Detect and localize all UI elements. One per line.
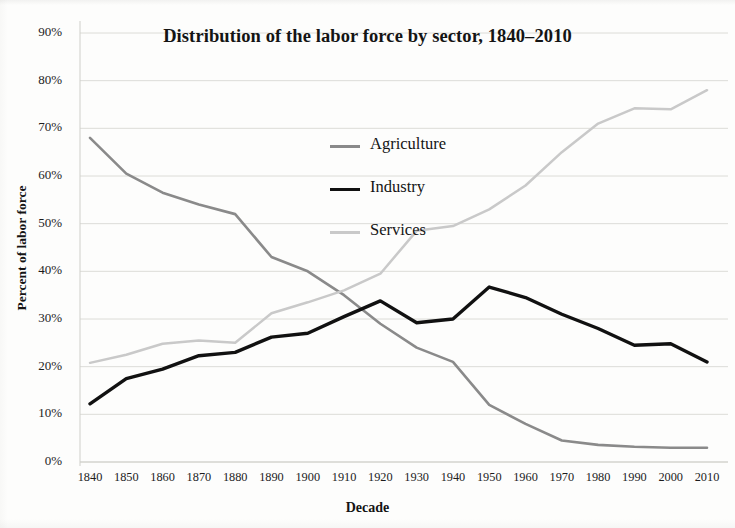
chart-title: Distribution of the labor force by secto… (0, 26, 735, 47)
legend-swatch-industry (330, 188, 360, 191)
y-tick-label: 20% (18, 358, 62, 374)
y-tick-label: 10% (18, 405, 62, 421)
legend-label-industry: Industry (370, 177, 425, 197)
x-tick-label: 2010 (685, 470, 729, 485)
legend-label-agriculture: Agriculture (370, 134, 446, 154)
y-tick-label: 0% (18, 453, 62, 469)
y-tick-label: 50% (18, 215, 62, 231)
axis-lines (80, 21, 728, 466)
y-tick-label: 40% (18, 262, 62, 278)
chart-figure: Distribution of the labor force by secto… (0, 0, 735, 528)
y-tick-label: 30% (18, 310, 62, 326)
y-tick-label: 60% (18, 167, 62, 183)
legend-swatch-services (330, 231, 360, 234)
y-tick-label: 80% (18, 72, 62, 88)
legend-label-services: Services (370, 220, 426, 240)
y-tick-label: 70% (18, 119, 62, 135)
x-axis-title: Decade (0, 500, 735, 516)
y-tick-label: 90% (18, 24, 62, 40)
plot-area (0, 0, 735, 528)
legend-swatch-agriculture (330, 145, 360, 148)
series-line-industry (90, 287, 707, 404)
